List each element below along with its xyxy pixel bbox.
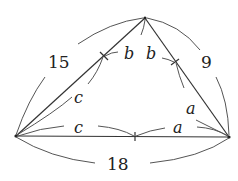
- vertex-apex: [143, 16, 146, 19]
- arc-b-apex: [141, 20, 145, 35]
- arc-left-upper: [78, 18, 143, 44]
- arc-base-left: [16, 137, 95, 163]
- label-a-right: a: [186, 99, 196, 118]
- triangle-diagram: 15 9 18 b b c a c a: [0, 0, 238, 181]
- arc-c-base-right: [98, 126, 134, 136]
- label-side-left: 15: [48, 52, 70, 72]
- label-c-left: c: [74, 88, 83, 107]
- arc-b-right: [162, 58, 174, 62]
- label-a-base: a: [173, 118, 183, 137]
- arc-a-base-left: [136, 128, 165, 136]
- label-c-base: c: [74, 118, 83, 137]
- label-side-base: 18: [107, 154, 129, 174]
- side-base: [16, 136, 229, 137]
- arc-c-left-upper: [88, 57, 103, 84]
- arc-base-right: [150, 138, 229, 163]
- label-b-left: b: [124, 44, 134, 63]
- arc-c-left: [17, 97, 72, 135]
- label-b-right: b: [146, 44, 156, 63]
- label-side-right: 9: [201, 52, 212, 72]
- arc-right-lower: [216, 77, 229, 135]
